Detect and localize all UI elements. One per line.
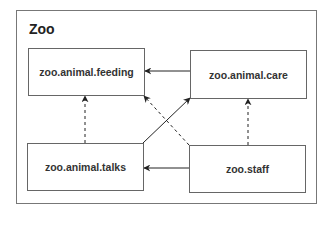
node-label: zoo.staff (226, 163, 269, 175)
node-staff: zoo.staff (189, 145, 306, 193)
node-talks: zoo.animal.talks (27, 143, 144, 191)
node-label: zoo.animal.talks (45, 161, 126, 173)
node-label: zoo.animal.feeding (39, 66, 134, 78)
node-care: zoo.animal.care (190, 50, 307, 99)
node-feeding: zoo.animal.feeding (28, 48, 145, 96)
node-label: zoo.animal.care (209, 69, 288, 81)
edge-talks-to-care (143, 98, 190, 143)
